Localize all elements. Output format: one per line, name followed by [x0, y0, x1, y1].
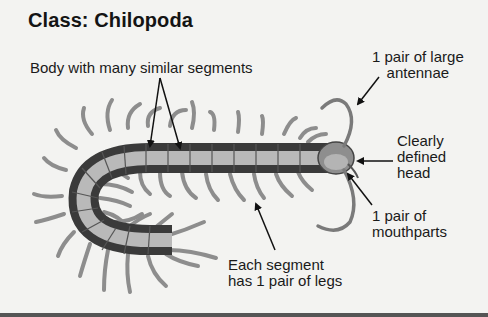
label-legs-line2: has 1 pair of legs: [228, 273, 342, 289]
centipede-body: [84, 158, 330, 240]
bottom-divider: [0, 313, 488, 317]
label-antennae-line2: antennae: [372, 65, 464, 81]
label-mouthparts: 1 pair of mouthparts: [372, 208, 447, 240]
label-head: Clearly defined head: [397, 133, 446, 181]
label-body-segments: Body with many similar segments: [30, 60, 253, 76]
label-head-line1: Clearly: [397, 133, 446, 149]
label-head-line3: head: [397, 165, 446, 181]
label-head-line2: defined: [397, 149, 446, 165]
label-antennae: 1 pair of large antennae: [372, 49, 464, 81]
label-mouthparts-line2: mouthparts: [372, 224, 447, 240]
chilopoda-diagram: Class: Chilopoda: [0, 0, 488, 317]
label-legs: Each segment has 1 pair of legs: [228, 257, 342, 289]
label-antennae-line1: 1 pair of large: [372, 49, 464, 65]
label-mouthparts-line1: 1 pair of: [372, 208, 447, 224]
label-legs-line1: Each segment: [228, 257, 342, 273]
